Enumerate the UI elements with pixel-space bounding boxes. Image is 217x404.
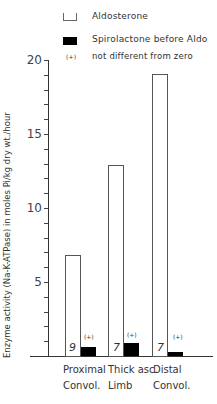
x-label-distal: Distal Convol. [153, 362, 190, 394]
bar-spirolactone-distal [168, 352, 183, 356]
x-label-thick-asc-limb: Thick asc. Limb [108, 362, 158, 394]
y-axis-label: Enzyme activity (Na-K-ATPase) in moles P… [2, 112, 12, 358]
bar-aldosterone-thick-asc-limb [108, 165, 124, 357]
bar-aldosterone-distal [152, 74, 168, 357]
n-label-thick-asc-limb: 7 [113, 341, 120, 354]
ytick-label-15: 15 [24, 127, 42, 141]
y-axis-line [48, 60, 49, 357]
ytick-label-20: 20 [24, 53, 42, 67]
x-label-proximal: Proximal Convol. [63, 362, 106, 394]
legend-note-text: not different from zero [92, 51, 193, 61]
n-label-distal: 7 [157, 341, 164, 354]
legend-note-marker: (+) [66, 53, 76, 60]
ytick-label-5: 5 [24, 275, 42, 289]
ytick-label-10: 10 [24, 201, 42, 215]
legend-swatch-aldosterone [63, 13, 77, 21]
marker-thick-asc-limb: (+) [127, 331, 137, 338]
legend-swatch-spirolactone [63, 37, 77, 45]
marker-distal: (+) [173, 333, 183, 340]
legend-label-spirolactone: Spirolactone before Aldo [92, 34, 208, 44]
marker-proximal: (+) [84, 333, 94, 340]
n-label-proximal: 9 [69, 341, 76, 354]
legend-label-aldosterone: Aldosterone [92, 11, 148, 21]
bar-spirolactone-thick-asc-limb [124, 343, 139, 356]
bar-spirolactone-proximal [81, 347, 96, 356]
